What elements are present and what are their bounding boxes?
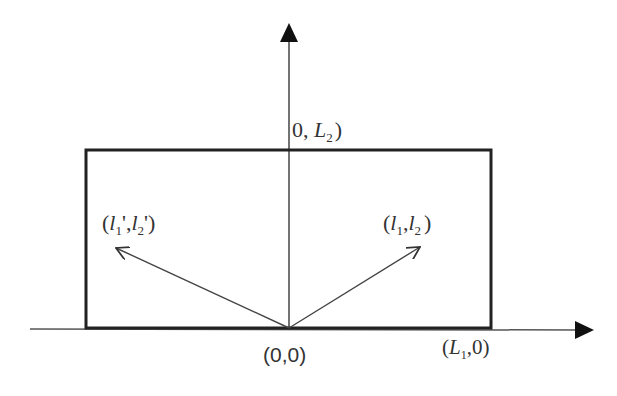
label-corner: (L1,0) xyxy=(442,335,489,362)
coordinate-diagram: 0, L2) (l1',l2') (l1,l2) (0,0) (L1,0) xyxy=(0,0,617,396)
vector-l1prime-l2prime xyxy=(116,248,289,328)
label-top-point: 0, L2) xyxy=(292,117,342,145)
x-axis-arrow-icon xyxy=(575,321,594,339)
x-axis xyxy=(30,321,594,339)
label-origin: (0,0) xyxy=(263,343,306,366)
label-vector-left: (l1',l2') xyxy=(102,210,155,238)
y-axis xyxy=(280,23,298,330)
label-vector-right: (l1,l2) xyxy=(383,210,431,238)
vector-l1-l2 xyxy=(289,247,420,328)
y-axis-arrow-icon xyxy=(280,23,298,42)
